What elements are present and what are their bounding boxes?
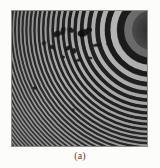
fringe-ring-light: [11, 10, 148, 147]
plate-border: [12, 11, 148, 147]
fringe-ring-light: [17, 10, 148, 147]
fringe-ring-light: [60, 10, 148, 122]
fringe-ring-dark: [98, 10, 148, 84]
fringe-ring-dark: [11, 10, 148, 147]
fringe-ring-light: [36, 10, 148, 146]
fringe-ring-light: [11, 10, 148, 147]
fringe-ring-dark: [121, 10, 148, 61]
fringe-ring-light: [11, 10, 148, 147]
fringe-ring-light: [11, 10, 148, 147]
fringe-ring-dark: [11, 10, 148, 147]
fringe-ring-dark: [11, 10, 148, 147]
fringe-ring-light: [11, 10, 148, 147]
fringe-pattern-graphic: [11, 10, 148, 147]
fringe-ring-dark: [48, 10, 148, 134]
fringe-ring-light: [11, 10, 148, 147]
fringe-ring-light: [28, 10, 148, 147]
emulsion-defects-group: [33, 26, 112, 111]
fringe-ring-dark: [43, 10, 148, 139]
central-dark-disc: [132, 10, 148, 50]
fringe-ring-dark: [34, 10, 148, 147]
fringe-ring-light: [11, 10, 148, 147]
fringe-ring-dark: [11, 10, 148, 147]
dust-blob-9: [92, 43, 101, 47]
dust-blob-10: [106, 42, 112, 45]
fringe-ring-dark: [53, 10, 148, 129]
dust-blob-15: [71, 109, 74, 112]
fringe-ring-dark: [11, 10, 148, 147]
fringe-ring-dark: [39, 10, 148, 143]
fringe-ring-light: [45, 10, 148, 137]
dust-blob-8: [71, 48, 76, 55]
fringe-ring-dark: [82, 10, 148, 100]
fringe-ring-light: [113, 10, 148, 69]
fringe-ring-light: [11, 10, 148, 147]
fringe-ring-dark: [11, 10, 148, 147]
fringe-ring-light: [66, 10, 148, 116]
fringe-ring-light: [102, 10, 148, 80]
fringe-ring-dark: [19, 10, 148, 147]
dust-blob-2: [60, 26, 67, 35]
fringe-ring-dark: [63, 10, 148, 119]
fringe-ring-light: [11, 10, 148, 147]
fringe-ring-dark: [69, 10, 148, 113]
fringe-ring-dark: [11, 10, 148, 147]
fringe-ring-dark: [22, 10, 148, 147]
dust-blob-3: [67, 26, 75, 33]
figure-caption: (a): [0, 149, 160, 163]
fringe-ring-light: [11, 10, 148, 147]
fringe-ring-light: [11, 10, 148, 147]
fringe-ring-light: [20, 10, 148, 147]
fringe-ring-dark: [11, 10, 148, 147]
fringe-ring-light: [32, 10, 148, 147]
fringe-rings-group: [11, 10, 148, 147]
fringe-ring-light: [11, 10, 148, 147]
vignette-overlay: [11, 10, 148, 147]
fringe-ring-dark: [11, 10, 148, 147]
fringe-ring-dark: [11, 10, 148, 147]
figure-container: (a): [0, 0, 160, 168]
fringe-ring-dark: [58, 10, 148, 124]
fringe-ring-light: [78, 10, 148, 104]
dust-blob-13: [87, 56, 93, 59]
fringe-ring-dark: [11, 10, 148, 147]
plate-base: [11, 10, 148, 147]
fringe-ring-light: [11, 10, 148, 147]
fringe-ring-light: [50, 10, 148, 132]
dust-blob-1: [52, 30, 62, 39]
fringe-ring-light: [72, 10, 148, 110]
dust-blob-16: [41, 40, 47, 46]
fringe-ring-light: [85, 10, 148, 97]
fringe-ring-dark: [30, 10, 148, 147]
fringe-ring-dark: [108, 10, 148, 74]
fringe-ring-dark: [15, 10, 148, 147]
fringe-ring-dark: [11, 10, 148, 147]
fringe-ring-light: [13, 10, 148, 147]
fringe-ring-light: [11, 10, 148, 147]
dust-blob-14: [33, 86, 37, 90]
interference-pattern-photograph: [11, 10, 148, 147]
fringe-ring-light: [55, 10, 148, 127]
fringe-ring-light: [93, 10, 148, 89]
fringe-ring-dark: [26, 10, 148, 147]
dust-blob-6: [49, 44, 56, 50]
fringe-ring-dark: [11, 10, 148, 147]
fringe-ring-dark: [11, 10, 148, 147]
dust-blob-11: [61, 55, 65, 58]
dust-blob-5: [86, 28, 92, 33]
dust-blob-4: [77, 28, 90, 38]
fringe-ring-light: [11, 10, 148, 147]
fringe-ring-dark: [11, 10, 148, 147]
fringe-ring-dark: [89, 10, 148, 93]
dust-blob-12: [75, 58, 82, 62]
dust-blob-7: [64, 44, 72, 51]
fringe-ring-light: [41, 10, 148, 141]
fringe-ring-dark: [75, 10, 148, 107]
fringe-ring-light: [24, 10, 148, 147]
